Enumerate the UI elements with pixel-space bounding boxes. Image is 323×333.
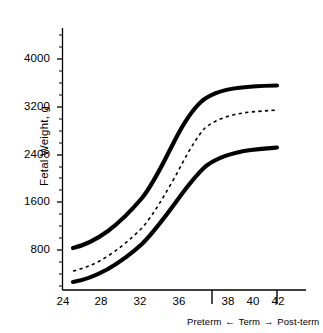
fetal-weight-chart: Fetal Weight, g 4000 3200 2400 1600 800 … [0,0,323,333]
y-major-ticks [57,59,63,250]
series-line-middle [73,110,277,271]
y-tick-label-1600: 1600 [6,195,50,207]
series-line-upper [73,86,277,249]
y-tick-label-3200: 3200 [6,100,50,112]
x-tick-label-28: 28 [89,295,113,307]
period-label-term: Term [239,316,261,327]
x-tick-label-38: 38 [216,295,240,307]
y-tick-label-2400: 2400 [6,148,50,160]
x-tick-label-24: 24 [51,295,75,307]
y-tick-label-800: 800 [6,243,50,255]
period-label-preterm: Preterm [187,316,221,327]
x-tick-label-42: 42 [266,295,290,307]
y-tick-label-4000: 4000 [6,52,50,64]
x-tick-label-32: 32 [128,295,152,307]
series-line-lower [73,148,277,283]
gestational-period-annotation: Preterm ← Term → Post-term [187,316,319,327]
x-tick-label-40: 40 [241,295,265,307]
period-label-postterm: Post-term [277,316,319,327]
arrow-right-icon: → [263,316,275,327]
x-tick-label-36: 36 [167,295,191,307]
arrow-left-icon: ← [224,316,236,327]
